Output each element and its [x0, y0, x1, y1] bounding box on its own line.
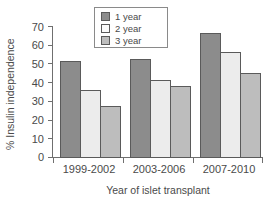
legend: 1 year 2 year 3 year: [95, 8, 168, 48]
y-axis-title: % Insulin independence: [4, 38, 16, 150]
bar-chart: % Insulin independence 70 60 50 40: [0, 0, 271, 203]
y-tick-label: 40: [32, 77, 44, 89]
y-tick-label: 30: [32, 95, 44, 107]
bar-1999-2002-2-year: [80, 90, 100, 157]
legend-label-2-year: 2 year: [115, 23, 141, 34]
y-tick-label: 20: [32, 114, 44, 126]
bar-1999-2002-1-year: [60, 61, 80, 157]
legend-item-2-year: 2 year: [102, 23, 142, 34]
legend-swatch-2-year: [102, 25, 110, 33]
bar-2007-2010-3-year: [240, 73, 260, 157]
y-tick-label: 60: [32, 39, 44, 51]
y-tick-label: 10: [32, 133, 44, 145]
legend-label-3-year: 3 year: [115, 35, 141, 46]
legend-item-1-year: 1 year: [102, 11, 142, 22]
y-tick-label: 70: [32, 21, 44, 33]
bar-2007-2010-1-year: [200, 33, 220, 157]
legend-swatch-3-year: [102, 37, 110, 45]
legend-label-1-year: 1 year: [115, 11, 141, 22]
x-axis-tick-labels: 1999-2002 2003-2006 2007-2010: [63, 163, 256, 175]
x-tick-label-2003-2006: 2003-2006: [133, 163, 186, 175]
y-tick-label: 50: [32, 58, 44, 70]
bar-2003-2006-2-year: [150, 81, 170, 158]
bar-1999-2002-3-year: [100, 107, 120, 157]
x-axis-title: Year of islet transplant: [106, 184, 210, 196]
bar-2003-2006-1-year: [130, 59, 150, 157]
y-tick-label: 0: [38, 151, 44, 163]
bar-2007-2010-2-year: [220, 53, 240, 158]
legend-swatch-1-year: [102, 13, 110, 21]
bar-2003-2006-3-year: [170, 86, 190, 157]
chart-canvas: % Insulin independence 70 60 50 40: [0, 0, 271, 203]
legend-item-3-year: 3 year: [102, 35, 142, 46]
x-tick-label-1999-2002: 1999-2002: [63, 163, 116, 175]
x-tick-label-2007-2010: 2007-2010: [203, 163, 256, 175]
